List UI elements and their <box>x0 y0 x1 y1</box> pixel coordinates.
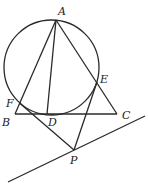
point-label-C: C <box>122 109 131 122</box>
point-label-B: B <box>1 116 10 129</box>
point-label-E: E <box>99 73 108 86</box>
line-through-P <box>8 116 145 182</box>
geometry-diagram: ABCDEFP <box>0 0 148 194</box>
geometry-figure: ABCDEFP <box>0 0 148 194</box>
point-label-D: D <box>47 116 57 129</box>
point-label-P: P <box>69 154 78 167</box>
point-label-A: A <box>57 5 66 18</box>
segment-AB <box>15 20 56 114</box>
segment-EP <box>74 82 97 150</box>
point-label-F: F <box>5 97 14 110</box>
segment-AD <box>47 20 56 114</box>
